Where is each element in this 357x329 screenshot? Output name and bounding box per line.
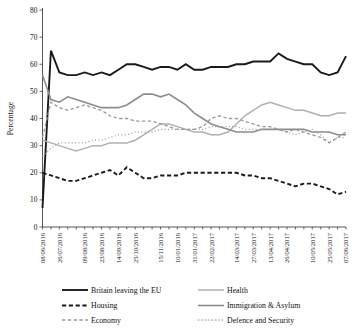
legend-item: Defence and Security xyxy=(198,316,294,325)
legend-item: Immigration & Asylum xyxy=(198,301,300,310)
y-tick-label: 50 xyxy=(30,87,38,96)
series-line-health xyxy=(43,102,347,151)
legend-label: Economy xyxy=(91,316,121,325)
legend-item: Housing xyxy=(62,301,118,310)
x-tick-label: 15/11/2016 xyxy=(157,232,164,262)
y-tick-label: 30 xyxy=(30,141,38,150)
y-tick-label: 70 xyxy=(30,33,38,42)
x-tick-label: 10/05/2017 xyxy=(309,232,316,263)
x-tick-label: 31/01/2017 xyxy=(191,232,198,263)
legend-label: Immigration & Asylum xyxy=(227,301,300,310)
x-tick-label: 14/09/2016 xyxy=(115,232,122,263)
series-line-economy xyxy=(43,102,347,143)
x-tick-label: 23/08/2016 xyxy=(98,232,105,263)
x-tick-label: 22/02/2017 xyxy=(208,232,215,263)
series-line-immigration-asylum xyxy=(43,75,347,135)
y-tick-label: 80 xyxy=(30,6,38,15)
x-tick-label: 14/03/2017 xyxy=(233,232,240,263)
y-tick-label: 10 xyxy=(30,195,38,204)
legend-label: Defence and Security xyxy=(227,316,294,325)
x-tick-label: 09/08/2016 xyxy=(81,232,88,263)
x-tick-label: 10/01/2016 xyxy=(174,232,181,263)
x-tick-label: 08/06/2016 xyxy=(39,232,46,263)
x-tick-label: 07/06/2017 xyxy=(342,232,349,263)
legend-label: Health xyxy=(227,286,248,295)
chart-figure: 01020304050607080Percentage08/06/201626/… xyxy=(0,0,357,329)
y-axis-title: Percentage xyxy=(6,101,15,135)
y-tick-label: 40 xyxy=(30,114,38,123)
series-line-defence-and-security xyxy=(43,127,347,157)
y-tick-label: 20 xyxy=(30,168,38,177)
legend-item: Britain leaving the EU xyxy=(62,286,162,295)
x-tick-label: 26/04/2017 xyxy=(283,232,290,263)
y-tick-label: 60 xyxy=(30,60,38,69)
y-tick-label: 0 xyxy=(34,223,38,232)
x-tick-label: 13/04/2017 xyxy=(267,232,274,263)
x-tick-label: 27/03/2017 xyxy=(250,232,257,263)
x-tick-label: 25/05/2017 xyxy=(326,232,333,263)
axis-lines xyxy=(43,8,347,227)
x-tick-label: 26/07/2016 xyxy=(56,232,63,263)
line-chart: 01020304050607080Percentage08/06/201626/… xyxy=(0,0,357,329)
legend-item: Health xyxy=(198,286,248,295)
legend-label: Britain leaving the EU xyxy=(91,286,162,295)
legend-item: Economy xyxy=(62,316,121,325)
series-line-housing xyxy=(43,167,347,194)
x-tick-label: 25/10/2016 xyxy=(132,232,139,263)
legend-label: Housing xyxy=(91,301,118,310)
